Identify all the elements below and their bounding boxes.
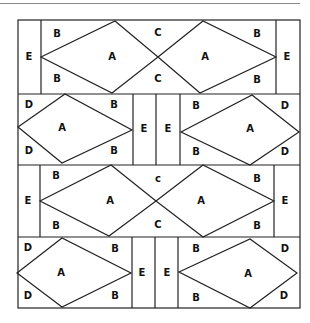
- quilt-row-2: DBADBEEBDABD: [18, 94, 300, 165]
- quilt-row-1: EBBACCABBE: [26, 20, 291, 94]
- patch-label-e: E: [25, 195, 32, 206]
- patch-label-b: B: [253, 28, 261, 39]
- patch-label-a: A: [58, 122, 66, 133]
- patch-label-e: E: [139, 267, 146, 278]
- patch-label-a: A: [106, 195, 114, 206]
- patch-label-b: B: [110, 145, 118, 156]
- patch-label-c: C: [154, 219, 161, 230]
- patch-label-e: E: [141, 123, 148, 134]
- patch-label-b: B: [253, 220, 261, 231]
- patch-label-b: B: [192, 100, 200, 111]
- patch-label-c: c: [155, 173, 161, 184]
- patch-label-e: E: [26, 51, 33, 62]
- patch-label-b: B: [111, 243, 119, 254]
- outer-border: [18, 20, 300, 308]
- patch-label-b: B: [53, 73, 61, 84]
- patch-label-a: A: [197, 195, 205, 206]
- patch-label-b: B: [192, 243, 200, 254]
- patch-label-b: B: [53, 28, 61, 39]
- patch-label-d: D: [25, 145, 33, 156]
- patch-label-b: B: [192, 146, 200, 157]
- patch-label-d: D: [25, 99, 33, 110]
- patch-label-b: B: [192, 292, 200, 303]
- patch-label-d: D: [24, 242, 32, 253]
- header-rule: [0, 3, 300, 4]
- patch-label-e: E: [284, 51, 291, 62]
- quilt-diagram: EBBACCABBEDBADBEEBDABDEBBAcCABBEDBADBEEB…: [0, 0, 310, 323]
- patch-label-d: D: [281, 100, 289, 111]
- quilt-row-4: DBADBEEBDABD: [17, 237, 300, 308]
- patch-label-b: B: [52, 220, 60, 231]
- patch-label-a: A: [244, 268, 252, 279]
- patch-label-c: C: [154, 73, 161, 84]
- patch-label-d: D: [24, 290, 32, 301]
- patch-label-a: A: [201, 51, 209, 62]
- patch-label-e: E: [165, 123, 172, 134]
- patch-label-a: A: [246, 123, 254, 134]
- patch-label-a: A: [108, 51, 116, 62]
- patch-label-b: B: [110, 99, 118, 110]
- patch-label-e: E: [164, 267, 171, 278]
- patch-label-b: B: [111, 290, 119, 301]
- quilt-row-3: EBBAcCABBE: [18, 165, 300, 237]
- patch-label-b: B: [52, 170, 60, 181]
- patch-label-e: E: [282, 195, 289, 206]
- patch-label-d: D: [281, 146, 289, 157]
- patch-label-d: D: [281, 243, 289, 254]
- patch-label-b: B: [253, 173, 261, 184]
- patch-label-c: C: [154, 27, 161, 38]
- patch-label-b: B: [253, 74, 261, 85]
- patch-label-a: A: [57, 267, 65, 278]
- patch-label-d: D: [280, 290, 288, 301]
- diagram-canvas: EBBACCABBEDBADBEEBDABDEBBAcCABBEDBADBEEB…: [0, 0, 310, 323]
